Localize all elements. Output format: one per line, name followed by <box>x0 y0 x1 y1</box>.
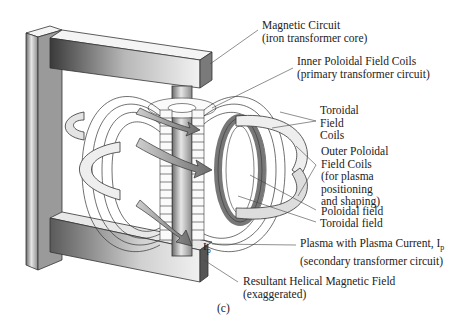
plasma-ring <box>218 118 262 222</box>
label-plasma-current: Plasma with Plasma Current, Ip (secondar… <box>300 237 444 267</box>
figure-caption: (c) <box>217 302 230 314</box>
label-magnetic-circuit: Magnetic Circuit (iron transformer core) <box>262 19 367 44</box>
label-toroidal-field: Toroidal field <box>320 217 383 230</box>
label-outer-poloidal-coils: Outer Poloidal Field Coils (for plasma p… <box>321 145 388 208</box>
label-poloidal-field: Poloidal field <box>321 205 383 218</box>
label-helical-field: Resultant Helical Magnetic Field (exagge… <box>243 275 395 300</box>
label-inner-poloidal-coils: Inner Poloidal Field Coils (primary tran… <box>297 55 430 80</box>
label-toroidal-field-coils: Toroidal Field Coils <box>320 104 359 142</box>
plasma-current-symbol: Ip <box>203 240 211 255</box>
tokamak-diagram: Ip Magnetic Circuit (iron transformer co… <box>0 0 460 326</box>
